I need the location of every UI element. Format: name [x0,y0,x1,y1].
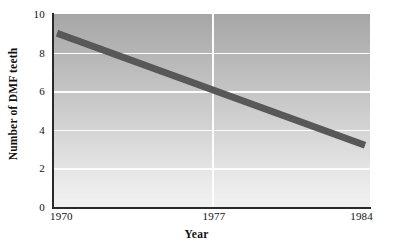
x-tick-label-1970: 1970 [50,210,73,222]
data-line-svg [54,14,370,207]
x-tick-label-1977: 1977 [194,210,234,222]
x-axis-line [52,207,371,209]
chart-figure: 10 8 6 4 2 0 1970 1977 1984 Year Number … [0,0,393,247]
series-line-dmf-teeth [57,33,365,145]
plot-area [54,14,370,207]
y-axis-line [52,13,54,208]
x-tick-label-1984: 1984 [345,210,373,222]
x-axis-title: Year [0,228,393,240]
y-axis-title-wrapper: Number of DMF teeth [4,0,22,207]
y-axis-title: Number of DMF teeth [7,47,19,160]
